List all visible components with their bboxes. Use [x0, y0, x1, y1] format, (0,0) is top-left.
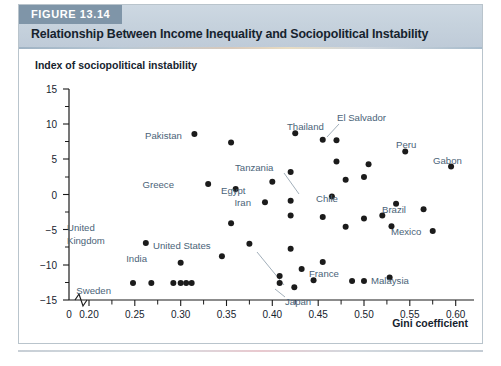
data-point-japan: [291, 284, 297, 290]
x-tick-label-060: 0.60: [446, 309, 466, 320]
data-point-greece: [205, 181, 211, 187]
data-point: [189, 280, 195, 286]
country-label-united-kingdom-line1: United: [67, 222, 95, 233]
data-point: [343, 224, 349, 230]
figure-header-band: FIGURE 13.14 Relationship Between Income…: [19, 5, 482, 47]
data-point-sweden: [130, 280, 136, 286]
country-label-greece: Greece: [143, 179, 174, 190]
figure-title: Relationship Between Income Inequality a…: [31, 27, 428, 41]
data-point-iran: [262, 199, 268, 205]
x-tick-label-045: 0.45: [308, 309, 328, 320]
y-tick-label-m10: −10: [40, 260, 57, 271]
country-label-tanzania: Tanzania: [235, 162, 274, 173]
x-tick-label-020: 0.20: [79, 309, 99, 320]
data-point: [361, 174, 367, 180]
data-point: [320, 259, 326, 265]
data-point-pakistan: [191, 131, 197, 137]
leader-united-states: [257, 252, 284, 285]
data-point: [170, 280, 176, 286]
country-label-iran: Iran: [234, 197, 251, 208]
data-point-el-salvador: [333, 137, 339, 143]
data-point: [361, 278, 367, 284]
data-point: [148, 280, 154, 286]
x-tick-label-0: 0: [66, 309, 72, 320]
leader-el-salvador: [327, 124, 339, 137]
country-label-sweden: Sweden: [76, 285, 111, 296]
country-label-peru: Peru: [396, 139, 416, 150]
y-tick-label-m15: −15: [40, 295, 57, 306]
country-label-chile: Chile: [316, 193, 338, 204]
y-tick-label-10: 10: [46, 119, 58, 130]
data-point: [246, 241, 252, 247]
y-tick-label-0: 0: [51, 190, 57, 201]
data-point: [228, 220, 234, 226]
data-point: [288, 246, 294, 252]
data-point: [366, 161, 372, 167]
country-label-brazil: Brazil: [382, 204, 406, 215]
x-tick-label-055: 0.55: [400, 309, 420, 320]
country-label-thailand: Thailand: [287, 121, 324, 132]
y-tick-label-15: 15: [46, 84, 58, 95]
data-point: [288, 198, 294, 204]
country-label-egypt: Egypt: [221, 185, 246, 196]
scatter-plot-svg: 15 10 5 0 −5 −10 −15: [19, 49, 484, 343]
x-tick-label-050: 0.50: [354, 309, 374, 320]
x-tick-label-025: 0.25: [125, 309, 145, 320]
figure-card: FIGURE 13.14 Relationship Between Income…: [18, 4, 483, 344]
data-point: [288, 213, 294, 219]
plot-area: Index of sociopolitical instability Gini…: [19, 49, 482, 343]
data-point: [320, 137, 326, 143]
data-point-mexico: [430, 228, 436, 234]
country-label-united-kingdom-line2: Kingdom: [67, 235, 105, 246]
country-label-japan: Japan: [285, 296, 311, 307]
y-axis-major-ticks: [63, 89, 69, 300]
y-tick-label-m5: −5: [46, 225, 58, 236]
country-label-france: France: [309, 268, 339, 279]
data-point: [320, 214, 326, 220]
data-point: [277, 280, 283, 286]
x-tick-label-035: 0.35: [217, 309, 237, 320]
country-label-el-salvador: El Salvador: [337, 112, 387, 123]
x-axis-major-ticks: [89, 300, 456, 306]
data-point: [228, 139, 234, 145]
data-point-tanzania: [288, 169, 294, 175]
data-point: [349, 278, 355, 284]
figure-number-tag: FIGURE 13.14: [19, 5, 122, 24]
country-label-pakistan: Pakistan: [145, 130, 182, 141]
leader-tanzania: [284, 173, 299, 194]
data-point-france: [299, 266, 305, 272]
data-point: [178, 280, 184, 286]
country-label-united-states: United States: [153, 240, 211, 251]
data-point: [333, 158, 339, 164]
data-point-united-states: [277, 273, 283, 279]
data-point: [269, 179, 275, 185]
data-point: [361, 215, 367, 221]
bottom-divider-rule: [18, 350, 483, 352]
data-point: [343, 177, 349, 183]
country-label-gabon: Gabon: [433, 155, 462, 166]
x-tick-label-030: 0.30: [171, 309, 191, 320]
x-tick-label-040: 0.40: [263, 309, 283, 320]
country-label-india: India: [126, 253, 147, 264]
data-point-brazil: [421, 206, 427, 212]
leader-japan: [275, 289, 285, 297]
country-label-malaysia: Malaysia: [371, 275, 410, 286]
data-point: [183, 280, 189, 286]
y-tick-label-5: 5: [51, 154, 57, 165]
data-point-united-kingdom: [143, 240, 149, 246]
country-labels-group: Pakistan Thailand El Salvador Peru Gabon…: [67, 112, 462, 307]
country-label-mexico: Mexico: [391, 226, 421, 237]
data-point: [219, 253, 225, 259]
data-point-india: [178, 260, 184, 266]
